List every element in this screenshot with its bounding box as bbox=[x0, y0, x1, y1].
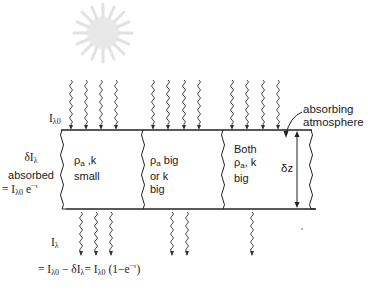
column-2-label: ρa big or k big bbox=[150, 154, 178, 196]
sun-icon bbox=[74, 4, 132, 62]
outgoing-rays bbox=[79, 212, 254, 256]
outgoing-ray-group-2 bbox=[170, 212, 189, 256]
thickness-arrow bbox=[295, 131, 300, 208]
scan-speck bbox=[301, 228, 303, 230]
slab-divider-1 bbox=[142, 130, 145, 209]
column-3-label: Both ρa, k big bbox=[234, 143, 257, 185]
incoming-ray-group-3 bbox=[230, 80, 280, 130]
transmitted-intensity-label: Iλ bbox=[51, 236, 59, 252]
slab-divider-2 bbox=[222, 130, 225, 209]
outgoing-ray-group-1 bbox=[79, 212, 113, 256]
incoming-rays bbox=[69, 80, 280, 130]
thickness-label: δz bbox=[280, 162, 294, 175]
incoming-ray-group-1 bbox=[69, 80, 118, 130]
outgoing-ray-group-3 bbox=[250, 212, 254, 256]
incident-intensity-label: Iλ0 bbox=[49, 112, 61, 128]
absorbing-atmosphere-label: absorbing atmosphere bbox=[303, 103, 364, 129]
transmitted-equation: = Iλ0 − δIλ= Iλ0 (1−e−τ) bbox=[38, 260, 140, 279]
atmosphere-pointer-arrow bbox=[284, 112, 303, 138]
absorbed-label: δIλ absorbed bbox=[2, 150, 60, 183]
slab-left-edge bbox=[61, 130, 67, 209]
absorbed-equation: = Iλ0 e−τ bbox=[2, 180, 38, 199]
column-1-label: ρa ,k small bbox=[74, 154, 100, 183]
slab-right-edge bbox=[310, 130, 316, 209]
incoming-ray-group-2 bbox=[151, 80, 201, 130]
